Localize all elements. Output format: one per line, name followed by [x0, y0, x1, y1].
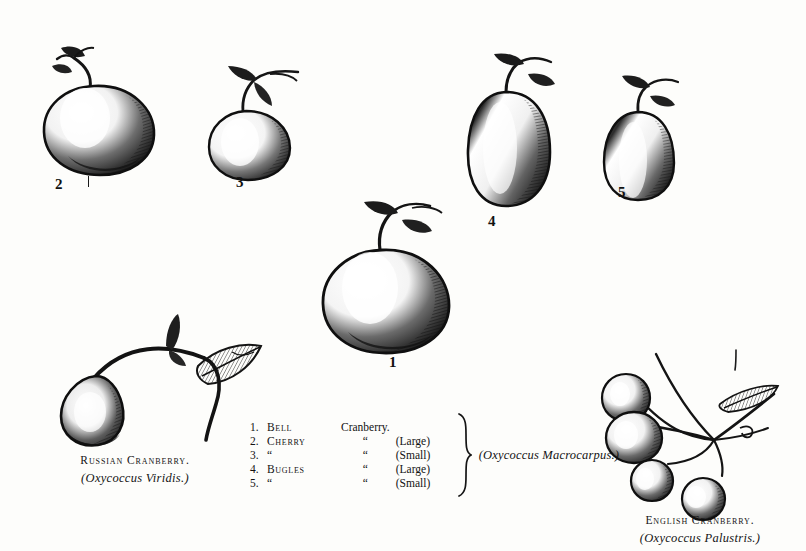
legend-brace-icon [456, 412, 472, 498]
caption-english-cranberry: English Cranberry. (Oxycoccus Palustris.… [600, 512, 800, 547]
specimen-number-5: 5 [618, 184, 626, 201]
legend-row-size: (Large) [390, 434, 452, 448]
russian-sprig-drawing [56, 300, 271, 450]
legend-row: 5. “ “ (Small) [250, 476, 452, 490]
berry-4-drawing [456, 48, 571, 213]
specimen-number-4: 4 [488, 213, 496, 230]
legend-row-number: 3. [250, 448, 267, 462]
legend-row-number: 2. [250, 434, 267, 448]
specimen-berry-4 [456, 48, 571, 213]
specimen-berry-3 [202, 56, 317, 181]
specimen-number-3: 3 [236, 174, 244, 191]
berry-1-drawing [306, 188, 466, 358]
legend-row: 3. “ “ (Small) [250, 448, 452, 462]
legend-rows: 1. Bell Cranberry. 2. Cherry “ (Large) 3… [250, 420, 452, 491]
specimen-2-tick [88, 176, 89, 187]
specimen-english-cranberry-sprig [602, 342, 802, 512]
legend-row-ditto: Cranberry. [341, 420, 390, 434]
specimen-berry-2 [28, 36, 178, 181]
caption-english-common: English Cranberry. [600, 512, 800, 529]
english-sprig-drawing [602, 342, 802, 512]
caption-russian-latin: (Oxycoccus Viridis.) [30, 469, 240, 487]
legend-row-name: “ [267, 448, 341, 462]
caption-russian-common: Russian Cranberry. [30, 452, 240, 469]
legend-row-size: (Small) [390, 448, 452, 462]
berry-2-drawing [28, 36, 178, 181]
berry-5-drawing [592, 68, 697, 198]
legend-row-ditto: “ [341, 448, 390, 462]
legend-row-number: 1. [250, 420, 267, 434]
berry-3-drawing [202, 56, 317, 181]
legend-row: 4. Bugles “ (Large) [250, 462, 452, 476]
legend-row-name: Bell [267, 420, 341, 434]
specimen-berry-5 [592, 68, 697, 198]
legend-row-ditto: “ [341, 434, 390, 448]
legend-key: 1. Bell Cranberry. 2. Cherry “ (Large) 3… [250, 412, 619, 498]
legend-row: 2. Cherry “ (Large) [250, 434, 452, 448]
legend-row-name: “ [267, 476, 341, 490]
engraving-plate: 2 3 [0, 0, 806, 551]
legend-row-name: Bugles [267, 462, 341, 476]
caption-russian-cranberry: Russian Cranberry. (Oxycoccus Viridis.) [30, 452, 240, 487]
caption-english-latin: (Oxycoccus Palustris.) [600, 529, 800, 547]
legend-row-name: Cherry [267, 434, 341, 448]
legend-row: 1. Bell Cranberry. [250, 420, 452, 434]
legend-row-number: 5. [250, 476, 267, 490]
specimen-russian-cranberry-sprig [56, 300, 271, 450]
legend-row-number: 4. [250, 462, 267, 476]
legend-row-size [390, 420, 452, 434]
legend-row-size: (Large) [390, 462, 452, 476]
specimen-number-2: 2 [55, 176, 63, 193]
specimen-berry-1 [306, 188, 466, 358]
legend-row-size: (Small) [390, 476, 452, 490]
specimen-number-1: 1 [389, 354, 397, 371]
legend-row-ditto: “ [341, 462, 390, 476]
legend-latin-name: (Oxycoccus Macrocarpus.) [479, 448, 619, 463]
legend-row-ditto: “ [341, 476, 390, 490]
